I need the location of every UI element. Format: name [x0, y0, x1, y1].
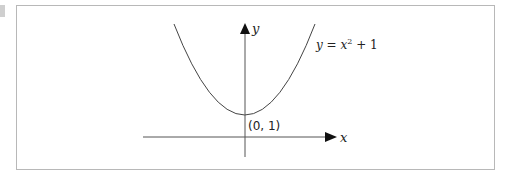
y-axis-label: y [251, 21, 260, 36]
parabola-diagram: y x y = x2 + 1 (0, 1) [0, 0, 505, 175]
x-axis-arrow-icon [325, 132, 337, 142]
curve-label: y = x2 + 1 [315, 37, 378, 52]
x-axis-label: x [340, 130, 348, 145]
vertex-label: (0, 1) [248, 119, 280, 133]
y-axis-arrow-icon [240, 23, 250, 34]
